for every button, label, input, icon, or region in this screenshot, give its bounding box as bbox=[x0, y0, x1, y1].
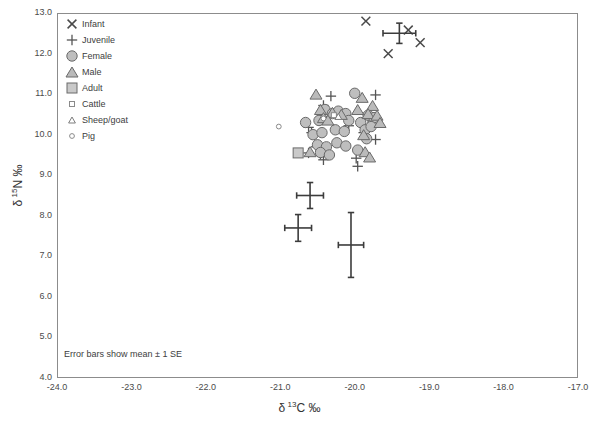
circle-glyph bbox=[70, 134, 75, 139]
x-axis-title: δ 13C ‰ bbox=[0, 400, 599, 415]
legend-label: Juvenile bbox=[82, 36, 115, 45]
legend-item-juvenile[interactable]: Juvenile bbox=[64, 33, 160, 47]
y-tick-label: 4.0 bbox=[6, 373, 52, 382]
triangle-marker-icon bbox=[64, 65, 80, 79]
x-glyph bbox=[68, 20, 77, 29]
legend-item-male[interactable]: Male bbox=[64, 65, 160, 79]
y-tick-label: 11.0 bbox=[6, 89, 52, 98]
legend-label: Pig bbox=[82, 132, 95, 141]
x-axis-tick-labels: -24.0-23.0-22.0-21.0-20.0-19.0-18.0-17.0 bbox=[0, 383, 599, 399]
legend: InfantJuvenileFemaleMaleAdultCattleSheep… bbox=[64, 17, 160, 143]
x-tick-label: -22.0 bbox=[181, 383, 231, 392]
chart-root: 13.012.011.010.09.08.07.06.05.04.0 -24.0… bbox=[0, 0, 599, 423]
legend-item-pig[interactable]: Pig bbox=[64, 129, 160, 143]
legend-label: Female bbox=[82, 52, 112, 61]
y-tick-label: 13.0 bbox=[6, 8, 52, 17]
legend-item-sheep-goat[interactable]: Sheep/goat bbox=[64, 113, 160, 127]
square-glyph bbox=[67, 83, 77, 93]
x-marker-icon bbox=[64, 17, 80, 31]
x-tick-label: -17.0 bbox=[553, 383, 599, 392]
plus-glyph bbox=[67, 35, 77, 45]
y-tick-label: 5.0 bbox=[6, 332, 52, 341]
triangle-glyph bbox=[69, 117, 76, 123]
square-glyph bbox=[70, 102, 75, 107]
triangle-glyph bbox=[66, 67, 78, 77]
legend-item-infant[interactable]: Infant bbox=[64, 17, 160, 31]
legend-label: Cattle bbox=[82, 100, 106, 109]
x-tick-label: -20.0 bbox=[330, 383, 380, 392]
x-tick-label: -23.0 bbox=[106, 383, 156, 392]
triangle-marker-icon bbox=[64, 113, 80, 127]
square-marker-icon bbox=[64, 97, 80, 111]
y-tick-label: 6.0 bbox=[6, 292, 52, 301]
legend-label: Male bbox=[82, 68, 102, 77]
x-tick-label: -24.0 bbox=[32, 383, 82, 392]
y-axis-tick-labels: 13.012.011.010.09.08.07.06.05.04.0 bbox=[0, 0, 52, 423]
x-tick-label: -19.0 bbox=[404, 383, 454, 392]
legend-item-cattle[interactable]: Cattle bbox=[64, 97, 160, 111]
error-bar-note: Error bars show mean ± 1 SE bbox=[64, 349, 182, 359]
legend-label: Adult bbox=[82, 84, 103, 93]
circle-marker-icon bbox=[64, 49, 80, 63]
circle-glyph bbox=[67, 51, 77, 61]
circle-marker-icon bbox=[64, 129, 80, 143]
x-tick-label: -18.0 bbox=[479, 383, 529, 392]
legend-item-female[interactable]: Female bbox=[64, 49, 160, 63]
legend-item-adult[interactable]: Adult bbox=[64, 81, 160, 95]
y-tick-label: 12.0 bbox=[6, 49, 52, 58]
x-tick-label: -21.0 bbox=[255, 383, 305, 392]
plus-marker-icon bbox=[64, 33, 80, 47]
y-axis-title: δ 15N ‰ bbox=[10, 146, 25, 226]
legend-label: Sheep/goat bbox=[82, 116, 128, 125]
legend-label: Infant bbox=[82, 20, 105, 29]
y-tick-label: 7.0 bbox=[6, 251, 52, 260]
y-tick-label: 10.0 bbox=[6, 130, 52, 139]
square-marker-icon bbox=[64, 81, 80, 95]
